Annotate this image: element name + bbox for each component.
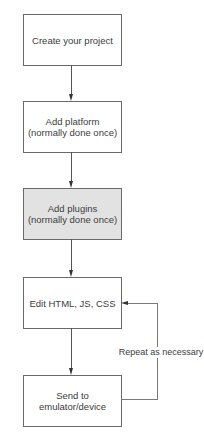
step-label: Edit HTML, JS, CSS — [29, 298, 115, 309]
connector-line — [71, 328, 72, 368]
step-add-plugins: Add plugins (normally done once) — [23, 188, 122, 240]
arrow-down-icon — [69, 270, 73, 277]
step-label-line2: emulator/device — [39, 401, 106, 412]
step-label-line1: Add platform — [46, 116, 100, 127]
step-send-to-device: Send to emulator/device — [23, 375, 122, 427]
connector-line — [71, 65, 72, 94]
loop-line-top — [127, 303, 158, 304]
arrow-down-icon — [69, 368, 73, 375]
step-add-platform: Add platform (normally done once) — [23, 101, 122, 153]
step-edit-code: Edit HTML, JS, CSS — [23, 277, 122, 329]
connector-line — [71, 152, 72, 181]
step-label-line1: Add plugins — [48, 203, 98, 214]
arrow-down-icon — [69, 181, 73, 188]
step-label-line2: (normally done once) — [28, 127, 117, 138]
step-label: Create your project — [32, 35, 113, 46]
step-create-project: Create your project — [23, 14, 122, 66]
loop-line-bottom — [121, 399, 158, 400]
arrow-down-icon — [69, 94, 73, 101]
arrow-left-icon — [121, 301, 128, 305]
step-label-line1: Send to — [56, 390, 89, 401]
loop-label: Repeat as necessary — [116, 347, 204, 358]
step-label-line2: (normally done once) — [28, 214, 117, 225]
connector-line — [71, 239, 72, 270]
